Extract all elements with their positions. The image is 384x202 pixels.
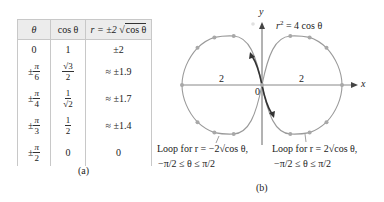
point: [180, 83, 184, 87]
left-tick-label: 2: [219, 73, 224, 84]
point: [196, 46, 200, 50]
point: [308, 131, 312, 135]
point: [212, 35, 216, 39]
y-axis-label: y: [259, 6, 263, 17]
left-loop-range: −π/2 ≤ θ ≤ π/2: [158, 158, 215, 169]
left-loop-leader: [216, 136, 219, 143]
caption-b: (b): [256, 182, 268, 193]
point: [196, 120, 200, 124]
origin-point: [260, 83, 264, 87]
right-tick-label: 2: [299, 73, 304, 84]
point: [340, 83, 344, 87]
point: [325, 46, 329, 50]
right-loop-range: −π/2 ≤ θ ≤ π/2: [274, 158, 331, 169]
y-axis-arrow-icon: [259, 22, 265, 29]
equation-label: r2 = 4 cos θ: [276, 19, 322, 31]
right-loop-direction-arrow: [262, 85, 272, 114]
faint-dot: [251, 22, 255, 26]
left-loop-label: Loop for r = −2√cos θ,: [157, 143, 248, 154]
point: [288, 132, 292, 136]
lemniscate-graph: [0, 0, 384, 202]
right-loop-label: Loop for r = 2√cos θ,: [272, 143, 357, 154]
x-axis-arrow-icon: [351, 82, 358, 88]
point: [212, 131, 216, 135]
point: [232, 132, 236, 136]
point: [325, 120, 329, 124]
origin-label: 0: [255, 86, 260, 97]
point: [232, 34, 236, 38]
point: [308, 35, 312, 39]
left-loop-direction-arrow: [252, 56, 262, 85]
point: [288, 34, 292, 38]
right-loop-leader: [305, 134, 306, 142]
x-axis-label: x: [361, 78, 365, 89]
equation-rhs: = 4 cos θ: [283, 20, 322, 31]
